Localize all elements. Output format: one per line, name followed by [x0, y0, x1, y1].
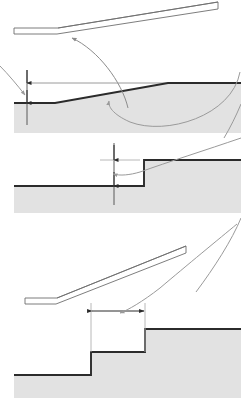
diagram-canvas — [0, 0, 241, 404]
lower-ramp-plank — [25, 246, 186, 304]
single-step-panel — [14, 160, 241, 213]
two-step-panel — [14, 329, 241, 398]
stairs-ground-fill — [14, 329, 241, 398]
leader-right-edge-lower — [196, 218, 241, 292]
lower-plank-body — [25, 246, 186, 304]
ramp-measurement-diagram — [0, 0, 241, 404]
upper-plank-top-edge — [58, 2, 218, 28]
step-run-dimension — [91, 303, 145, 352]
leader-from-left-margin-arrow — [0, 66, 25, 95]
upper-ramp-plank — [14, 2, 218, 34]
lower-plank-top-edge — [57, 246, 186, 298]
